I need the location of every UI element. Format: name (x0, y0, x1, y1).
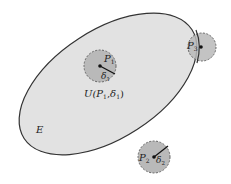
diagram-canvas: P1 δ1 U(P1,δ1) P3 P2 δ2 E (0, 0, 231, 184)
point-p1 (98, 64, 102, 68)
label-set-e: E (35, 124, 44, 135)
neighborhood-p1: P1 δ1 (84, 50, 116, 82)
point-p3 (199, 45, 203, 49)
neighborhood-p2: P2 δ2 (138, 141, 170, 173)
